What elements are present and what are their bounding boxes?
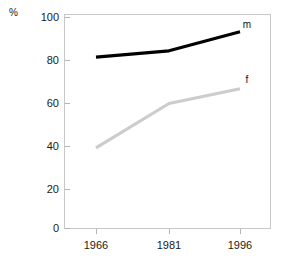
y-axis-label-100: 100: [41, 11, 59, 23]
chart-background: [0, 0, 286, 267]
chart-canvas: % 100 80 60 40 20 0 1966 1981 1996 m f: [0, 0, 286, 267]
y-axis-label-0: 0: [53, 222, 59, 234]
y-axis-unit-label: %: [9, 7, 18, 18]
y-axis-label-20: 20: [47, 183, 59, 195]
y-axis-label-80: 80: [47, 54, 59, 66]
series-label-m: m: [243, 19, 251, 30]
series-label-f: f: [246, 74, 249, 85]
x-axis-label-1966: 1966: [84, 239, 108, 251]
x-axis-label-1981: 1981: [157, 239, 181, 251]
y-axis-label-40: 40: [47, 140, 59, 152]
line-chart-figure: % 100 80 60 40 20 0 1966 1981 1996 m f: [0, 0, 286, 267]
y-axis-label-60: 60: [47, 97, 59, 109]
x-axis-label-1996: 1996: [228, 239, 252, 251]
